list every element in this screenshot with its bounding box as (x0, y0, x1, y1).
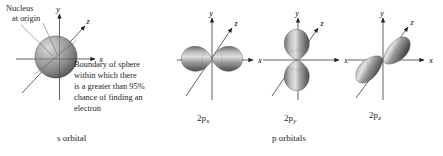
px-lobe-left (181, 46, 212, 71)
py-lobe-bottom (284, 60, 309, 91)
py-orbital-graphic (263, 18, 339, 100)
py-axis-label-y: y (294, 9, 299, 18)
nucleus-callout-line1: Nucleus (6, 4, 33, 13)
px-label-main: 2p (197, 113, 206, 123)
py-orbital-label: 2py (284, 113, 296, 125)
px-orbital-graphic (177, 18, 253, 100)
px-label-sub: x (206, 117, 209, 125)
pz-label-sub: z (378, 114, 381, 122)
py-axis-label-z: z (319, 19, 324, 28)
s-axis-label-y: y (55, 5, 60, 14)
pz-orbital-label: 2pz (369, 110, 381, 122)
p-orbitals-caption: p orbitals (272, 133, 306, 144)
py-lobe-top (284, 29, 309, 60)
s-orbital-caption: s orbital (57, 133, 86, 144)
py-label-main: 2p (284, 113, 293, 123)
pz-orbital-graphic (348, 18, 424, 100)
nucleus-callout: Nucleusat origin (6, 4, 40, 24)
px-axis-label-y: y (208, 9, 213, 18)
px-orbital-label: 2px (197, 113, 209, 125)
px-axis-label-x: x (257, 56, 262, 65)
py-axis-label-x: x (343, 56, 348, 65)
boundary-note: Boundary of sphere within which there is… (74, 60, 145, 115)
pz-axis-label-x: x (428, 56, 433, 65)
pz-axis-label-y: y (379, 9, 384, 18)
px-axis-label-z: z (233, 19, 238, 28)
orbital-diagram-figure: y z x y z x y z x y z x Nucleusat origin… (0, 0, 443, 156)
nucleus-callout-line2: at origin (6, 14, 40, 24)
s-axis-label-z: z (85, 17, 90, 26)
pz-axis-label-z: z (409, 18, 414, 27)
py-label-sub: y (293, 117, 296, 125)
pz-label-main: 2p (369, 110, 378, 120)
